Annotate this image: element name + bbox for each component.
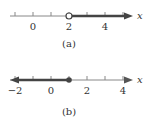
caption: (a) — [62, 38, 76, 49]
tick-label: 4 — [120, 85, 126, 96]
number-line-figures: x 0 2 4 (a) x −2 0 2 4 (b) — [0, 0, 153, 125]
number-line-b: x −2 0 2 4 (b) — [8, 74, 143, 117]
tick-label: 4 — [102, 21, 108, 32]
caption: (b) — [62, 106, 76, 117]
tick-label: 0 — [48, 85, 54, 96]
tick-label: 2 — [66, 21, 72, 32]
axis-variable: x — [137, 74, 143, 85]
number-line-a: x 0 2 4 (a) — [10, 10, 143, 49]
tick-label: −2 — [8, 85, 23, 96]
closed-endpoint-icon — [66, 77, 72, 83]
tick-label: 2 — [84, 85, 90, 96]
tick-label: 0 — [30, 21, 36, 32]
axis-variable: x — [137, 10, 143, 21]
axis-arrow-right-icon — [124, 77, 133, 84]
open-endpoint-icon — [66, 13, 72, 19]
arrow-right-icon — [124, 13, 133, 20]
